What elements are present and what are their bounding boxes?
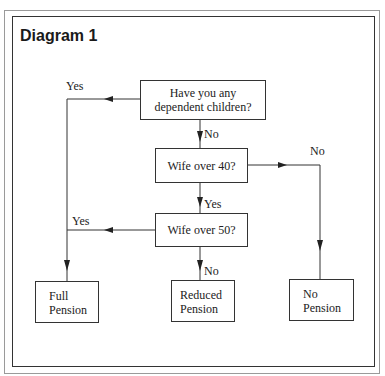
question-line-2: dependent children?	[155, 100, 252, 114]
question-line-1: Have you any	[170, 86, 237, 100]
outcome-line-1: Reduced	[180, 288, 222, 302]
edge-label-q1-yes: Yes	[66, 79, 83, 94]
arrow-down-icon	[197, 131, 203, 142]
edge-label-q2-no: No	[310, 144, 325, 159]
outcome-reduced-pension: Reduced Pension	[171, 280, 235, 322]
arrow-down-icon	[64, 260, 70, 271]
arrow-left-icon	[104, 96, 113, 102]
outcome-full-pension: Full Pension	[35, 281, 99, 323]
arrow-down-icon	[197, 260, 203, 271]
question-wife-over-50: Wife over 50?	[155, 213, 248, 247]
arrow-down-icon	[317, 240, 323, 251]
outcome-line-2: Pension	[49, 303, 87, 317]
arrow-right-icon	[278, 162, 287, 168]
outcome-no-pension: No Pension	[289, 279, 354, 321]
question-text: Wife over 40?	[167, 159, 235, 173]
edge-label-q1-no: No	[204, 127, 219, 142]
outcome-line-1: Full	[49, 289, 87, 303]
edge-label-q2-yes: Yes	[204, 197, 221, 212]
question-dependent-children: Have you any dependent children?	[140, 80, 266, 120]
outcome-line-1: No	[303, 287, 341, 301]
outcome-line-2: Pension	[180, 302, 222, 316]
question-wife-over-40: Wife over 40?	[155, 148, 248, 183]
arrow-left-icon	[104, 227, 113, 233]
question-text: Wife over 50?	[167, 223, 235, 237]
edge-label-q3-no: No	[204, 264, 219, 279]
arrow-down-icon	[197, 197, 203, 207]
edge-label-q3-yes: Yes	[72, 214, 89, 229]
outcome-line-2: Pension	[303, 301, 341, 315]
